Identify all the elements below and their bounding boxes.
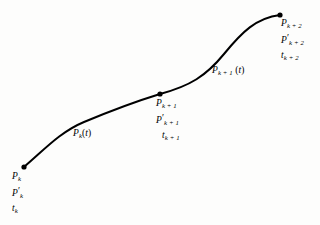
knot-parameter-label-k-plus-1: tk + 1 [156, 131, 180, 142]
knot-dot-k [21, 164, 26, 169]
curve-segment-k [24, 94, 160, 167]
knot-point-label-k-plus-2: Pk + 2 [281, 19, 304, 30]
knot-dot-k-plus-1 [157, 91, 162, 96]
segment-label-k-plus-1: Pk + 1 (t) [212, 65, 245, 76]
knot-point-label-k-plus-1: Pk + 1 [156, 99, 180, 110]
knot-dot-k-plus-2 [277, 12, 282, 17]
knot-label-group-k-plus-1: Pk + 1 P′k + 1 tk + 1 [156, 99, 180, 142]
knot-derivative-label-k-plus-1: P′k + 1 [156, 114, 180, 127]
curve-segment-k-plus-1 [160, 15, 280, 94]
knot-label-group-k: Pk P′k tk [12, 172, 23, 215]
spline-diagram: Pk P′k tk Pk + 1 P′k + 1 tk + 1 Pk + 2 P… [0, 0, 320, 225]
knot-parameter-label-k: tk [12, 204, 23, 215]
knot-label-group-k-plus-2: Pk + 2 P′k + 2 tk + 2 [281, 19, 304, 62]
knot-point-label-k: Pk [12, 172, 23, 183]
segment-label-k: Pk(t) [73, 128, 91, 139]
knot-parameter-label-k-plus-2: tk + 2 [281, 51, 304, 62]
knot-derivative-label-k-plus-2: P′k + 2 [281, 34, 304, 47]
knot-derivative-label-k: P′k [12, 187, 23, 200]
